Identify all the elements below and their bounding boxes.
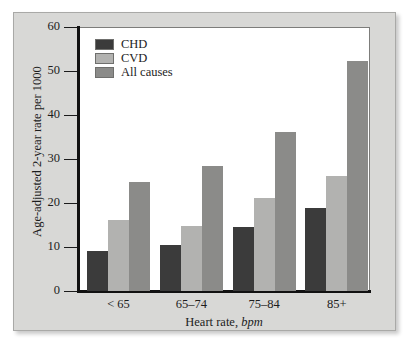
legend-item: CHD (95, 37, 200, 51)
bar (254, 198, 275, 291)
bar (160, 245, 181, 291)
legend-swatch (95, 53, 114, 64)
x-category-label: 85+ (297, 297, 377, 312)
bar-chart-figure: 0102030405060 Age-adjusted 2-year rate p… (0, 0, 415, 349)
legend-label: CHD (121, 38, 147, 51)
y-axis-title: Age-adjusted 2-year rate per 1000 (30, 39, 45, 265)
legend-label: CVD (121, 52, 147, 65)
legend-swatch (95, 39, 114, 50)
x-axis-title-italic: bpm (241, 315, 263, 329)
bar (233, 227, 254, 291)
x-category-label: < 65 (79, 297, 159, 312)
bar (326, 176, 347, 291)
y-tick-label-text: 60 (34, 20, 60, 33)
y-tick-mark (64, 27, 77, 28)
y-tick-mark (64, 203, 77, 204)
x-category-label: 65–74 (151, 297, 231, 312)
y-tick-mark (64, 115, 77, 116)
y-tick-label: 60 (30, 20, 60, 32)
chart-legend: CHDCVDAll causes (95, 37, 200, 79)
y-tick-mark (64, 71, 77, 72)
x-category-label: 75–84 (224, 297, 304, 312)
bar (129, 182, 150, 291)
bar (275, 132, 296, 291)
bar (305, 208, 326, 291)
legend-item: All causes (95, 65, 200, 79)
bar (87, 251, 108, 291)
y-tick-label: 0 (30, 284, 60, 296)
y-tick-mark (64, 247, 77, 248)
bar (202, 166, 223, 291)
legend-swatch (95, 67, 114, 78)
y-tick-mark (64, 291, 77, 292)
bar (347, 61, 368, 291)
bar (108, 220, 129, 291)
y-tick-mark (64, 159, 77, 160)
x-axis-title-plain: Heart rate, (185, 315, 238, 329)
x-axis-title: Heart rate, bpm (78, 315, 370, 330)
bar (181, 226, 202, 291)
legend-item: CVD (95, 51, 200, 65)
legend-label: All causes (121, 66, 173, 79)
y-tick-label-text: 0 (34, 284, 60, 297)
